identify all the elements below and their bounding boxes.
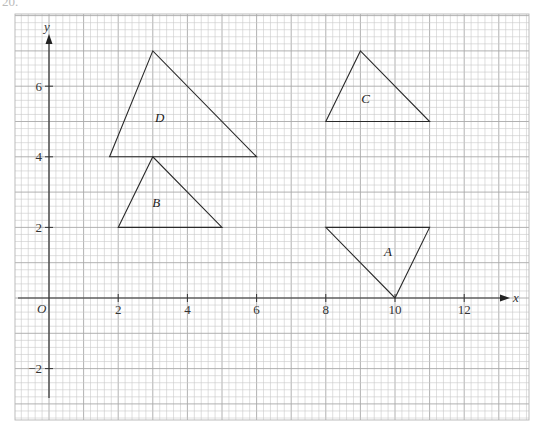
y-tick-label: 2	[36, 220, 43, 235]
triangle-label: A	[383, 244, 392, 259]
x-tick-label: 2	[115, 302, 122, 317]
x-tick-label: 10	[389, 302, 402, 317]
triangle-d: D	[110, 51, 257, 157]
x-tick-label: 4	[184, 302, 191, 317]
grid	[15, 14, 529, 420]
triangles: ABCD	[110, 51, 430, 298]
triangle-label: D	[154, 110, 165, 125]
coordinate-grid-diagram: x y O 24681012642−2 ABCD	[0, 0, 545, 439]
y-axis-arrow-icon	[46, 34, 53, 44]
triangle-label: B	[152, 195, 160, 210]
y-axis-label: y	[42, 19, 50, 34]
triangle-label: C	[361, 91, 370, 106]
x-axis-arrow-icon	[500, 295, 510, 302]
x-axis-label: x	[512, 290, 519, 305]
triangle-outline	[110, 51, 257, 157]
x-tick-label: 8	[323, 302, 330, 317]
y-tick-label: 6	[36, 79, 43, 94]
y-tick-label: −2	[28, 361, 42, 376]
origin-label: O	[37, 301, 47, 316]
x-tick-label: 12	[458, 302, 471, 317]
axes: x y O	[18, 19, 519, 398]
grid-border	[15, 14, 529, 420]
x-tick-label: 6	[253, 302, 260, 317]
y-tick-label: 4	[36, 149, 43, 164]
